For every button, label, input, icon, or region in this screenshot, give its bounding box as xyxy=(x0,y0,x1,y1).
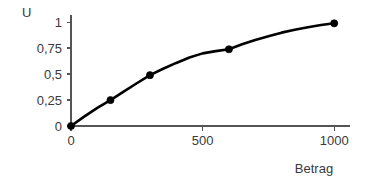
data-point-marker-0 xyxy=(67,122,74,129)
y-tick-label-3: 0,75 xyxy=(37,41,62,56)
y-tick-label-0: 0 xyxy=(55,119,62,134)
series-line-0 xyxy=(71,23,334,126)
y-tick-label-4: 1 xyxy=(55,15,62,30)
data-point-marker-4 xyxy=(331,20,338,27)
y-axis-title: U xyxy=(22,5,31,20)
data-point-marker-3 xyxy=(225,46,232,53)
chart-plot-area: 00,250,50,751 05001000 U Betrag xyxy=(0,0,383,186)
x-axis-title: Betrag xyxy=(295,161,333,176)
x-tick-label-0: 0 xyxy=(67,133,74,148)
data-point-marker-1 xyxy=(107,96,114,103)
data-series-group xyxy=(67,20,337,130)
y-tick-label-2: 0,5 xyxy=(44,67,62,82)
y-axis-ticks: 00,250,50,751 xyxy=(37,15,71,134)
axis-group xyxy=(71,15,350,126)
chart-figure: 00,250,50,751 05001000 U Betrag xyxy=(0,0,383,186)
x-tick-label-2: 1000 xyxy=(320,133,349,148)
x-tick-label-1: 500 xyxy=(192,133,214,148)
y-tick-label-1: 0,25 xyxy=(37,93,62,108)
data-point-marker-2 xyxy=(146,72,153,79)
x-axis-ticks: 05001000 xyxy=(67,126,348,148)
